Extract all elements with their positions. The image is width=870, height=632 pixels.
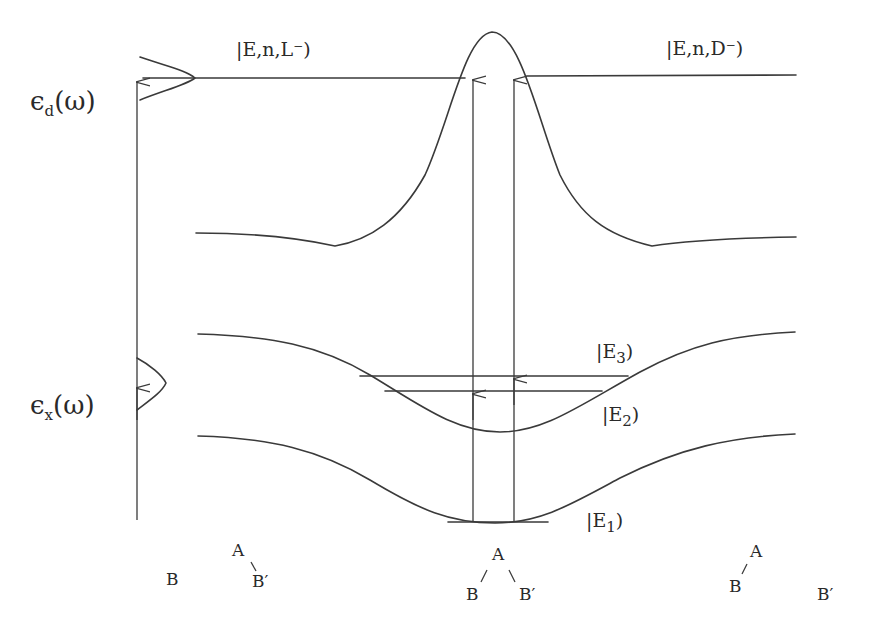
- geom-left-bond: [251, 562, 256, 571]
- geometry-right: A B B′: [729, 541, 833, 604]
- excited-state-curve: [198, 332, 795, 432]
- geometry-left: B A B′: [166, 540, 268, 591]
- state-L-minus-label: |E,n,L⁻): [236, 38, 311, 61]
- eps-x-lineshape: [137, 358, 166, 410]
- eps-d-label: ϵd(ω): [30, 86, 96, 120]
- geom-left-A: A: [231, 540, 245, 560]
- geom-center-Bprime: B′: [519, 584, 535, 604]
- ground-state-curve: [198, 434, 795, 523]
- potential-energy-diagram: ϵd(ω) ϵx(ω) |E,n,L⁻) |E,n,D⁻) |E3) |E2) …: [0, 0, 870, 632]
- dissociative-level-line: [143, 75, 796, 78]
- geom-right-A: A: [749, 541, 763, 561]
- geom-center-bond-left: [481, 570, 487, 582]
- geom-right-B: B: [729, 576, 742, 596]
- geom-center-B: B: [466, 584, 479, 604]
- eps-x-label: ϵx(ω): [30, 390, 95, 424]
- geom-right-bond: [742, 564, 747, 574]
- geom-right-Bprime: B′: [817, 584, 833, 604]
- state-E3-label: |E3): [596, 340, 633, 367]
- geom-center-bond-right: [509, 570, 515, 582]
- state-E1-label: |E1): [586, 509, 623, 536]
- geometry-center: A B B′: [466, 544, 535, 604]
- state-D-minus-label: |E,n,D⁻): [666, 37, 743, 60]
- state-E2-label: |E2): [602, 403, 639, 430]
- upper-resonance-curve: [196, 32, 796, 246]
- geom-center-A: A: [491, 544, 505, 564]
- geom-left-Bprime: B′: [252, 571, 268, 591]
- geom-left-B: B: [166, 569, 179, 589]
